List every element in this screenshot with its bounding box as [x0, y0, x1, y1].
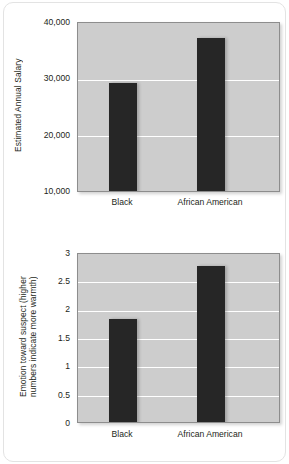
- emotion-ytick-0.5: 0.5: [58, 390, 70, 400]
- emotion-bar-african-american: [197, 266, 225, 423]
- emotion-ytick-3: 3: [65, 248, 70, 258]
- emotion-ytick-1.5: 1.5: [58, 333, 70, 343]
- emotion-category-african-american: African American: [178, 429, 243, 439]
- salary-plot-area: [77, 22, 280, 192]
- emotion-y-tick-labels: 3 2.5 2 1.5 1 0.5 0: [24, 233, 70, 433]
- emotion-bar-black: [109, 319, 137, 423]
- salary-ytick-10000: 10,000: [44, 186, 70, 196]
- salary-chart: Estimated Annual Salary 40,000 30,000 20…: [4, 3, 287, 232]
- salary-bar-african-american: [197, 38, 225, 192]
- emotion-category-black: Black: [111, 429, 132, 439]
- salary-ytick-20000: 20,000: [44, 130, 70, 140]
- emotion-plot-area: [77, 253, 280, 423]
- salary-category-african-american: African American: [178, 197, 243, 207]
- emotion-gridline-2: [78, 311, 279, 312]
- emotion-ytick-2: 2: [65, 304, 70, 314]
- salary-bar-black: [109, 83, 137, 193]
- figure-panel: Estimated Annual Salary 40,000 30,000 20…: [3, 2, 286, 462]
- emotion-chart: Emotion toward suspect (higher numbers i…: [4, 233, 287, 463]
- emotion-ytick-0: 0: [65, 418, 70, 428]
- salary-gridline-30000: [78, 80, 279, 81]
- salary-category-black: Black: [111, 197, 132, 207]
- salary-ytick-30000: 30,000: [44, 73, 70, 83]
- emotion-gridline-2.5: [78, 282, 279, 283]
- salary-ytick-40000: 40,000: [44, 17, 70, 27]
- emotion-ytick-1: 1: [65, 361, 70, 371]
- emotion-ytick-2.5: 2.5: [58, 276, 70, 286]
- salary-y-tick-labels: 40,000 30,000 20,000 10,000: [24, 3, 70, 203]
